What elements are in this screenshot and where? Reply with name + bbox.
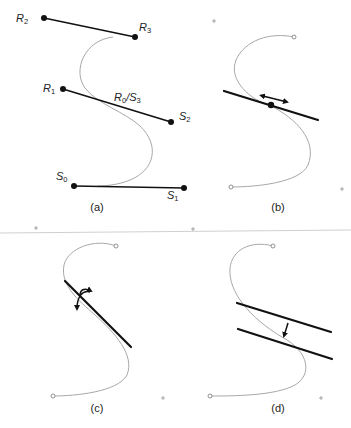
label-r3: R3 — [139, 21, 151, 35]
control-point-s2 — [168, 119, 174, 125]
bezier-curve — [53, 243, 129, 396]
curve-endpoint-top — [114, 244, 118, 248]
bezier-curve — [231, 36, 310, 187]
original-line — [237, 303, 331, 332]
panel-d: (d) — [208, 244, 332, 414]
caption-a: (a) — [90, 201, 103, 213]
curve-endpoint-bottom — [51, 394, 55, 398]
panel-b: (b) — [212, 19, 344, 213]
caption-b: (b) — [271, 201, 284, 213]
bezier-figure: R2 R3 R1 R0/S3 S2 S0 S1 (a) (b) — [0, 0, 351, 428]
curve-endpoint-top — [271, 244, 275, 248]
control-point-r3 — [132, 34, 138, 40]
plus-marker — [319, 396, 323, 400]
label-r2: R2 — [16, 12, 28, 26]
label-s0: S0 — [56, 170, 68, 184]
plus-marker — [34, 226, 195, 231]
curve-endpoint-bottom — [229, 185, 233, 189]
curve-endpoint-top — [292, 35, 296, 39]
slide-double-arrow-icon — [263, 96, 287, 102]
label-s2: S2 — [179, 110, 191, 124]
tangent-line — [65, 281, 131, 347]
label-r1: R1 — [43, 82, 55, 96]
control-point-s1 — [181, 185, 187, 191]
plus-marker — [161, 396, 165, 400]
plus-marker — [212, 19, 344, 191]
caption-c: (c) — [91, 402, 104, 414]
label-s1: S1 — [167, 189, 179, 203]
control-line-s0-s1 — [74, 186, 184, 188]
curve-endpoint-bottom — [208, 394, 212, 398]
bezier-curve — [80, 37, 152, 186]
control-line-r2-r3 — [44, 18, 135, 37]
panel-a: R2 R3 R1 R0/S3 S2 S0 S1 (a) — [16, 12, 191, 213]
control-point-r2 — [41, 15, 47, 21]
panel-divider — [0, 230, 351, 233]
label-r0-s3: R0/S3 — [114, 91, 141, 105]
panel-c: (c) — [51, 243, 165, 414]
control-point-s0 — [71, 183, 77, 189]
control-point-r1 — [60, 86, 66, 92]
caption-d: (d) — [271, 402, 284, 414]
tangent-point — [268, 102, 274, 108]
translate-arrow-icon — [284, 323, 288, 336]
